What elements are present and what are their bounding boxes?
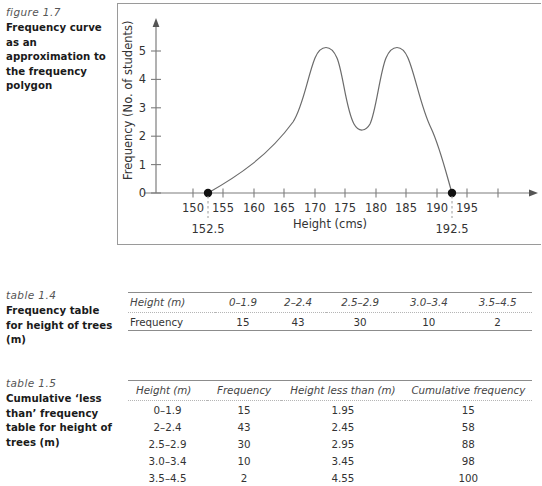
svg-text:1: 1 <box>139 158 146 172</box>
table-row: Height (m) Frequency Height less than (m… <box>128 381 532 401</box>
svg-text:4: 4 <box>139 72 146 86</box>
table-cell: 1.95 <box>281 401 405 419</box>
svg-text:150: 150 <box>182 201 204 215</box>
figure-caption-block: figure 1.7 Frequency curve as an approxi… <box>6 5 118 94</box>
table-row: 3.5–4.5 2 4.55 100 <box>128 469 532 486</box>
table-row: Height (m) 0–1.9 2–2.4 2.5–2.9 3.0–3.4 3… <box>128 293 532 313</box>
frequency-curve-path <box>208 48 452 194</box>
table-cell: 0–1.9 <box>128 401 207 419</box>
svg-text:160: 160 <box>243 201 265 215</box>
table-cell: 58 <box>405 418 532 435</box>
table-cell: 15 <box>215 313 270 331</box>
table-cell: 4.55 <box>281 469 405 486</box>
column-header: 3.0–3.4 <box>394 293 463 313</box>
table-cell: 30 <box>207 435 281 452</box>
table-cell: 2.45 <box>281 418 405 435</box>
table-1-5-caption-text: Cumulative ‘less than’ frequency table f… <box>6 392 118 450</box>
svg-text:170: 170 <box>304 201 326 215</box>
table-cell: 10 <box>394 313 463 331</box>
table-row: 0–1.9 15 1.95 15 <box>128 401 532 419</box>
svg-text:165: 165 <box>273 201 295 215</box>
figure-number: figure 1.7 <box>6 5 118 20</box>
column-header: 2.5–2.9 <box>326 293 395 313</box>
table-cell: 10 <box>207 452 281 469</box>
table-cell: 3.45 <box>281 452 405 469</box>
annotation-left-endpoint: 152.5 <box>192 222 225 236</box>
table-cell: 15 <box>405 401 532 419</box>
table-1-5-number: table 1.5 <box>6 376 118 391</box>
column-header: Frequency <box>207 381 281 401</box>
figure-caption-text: Frequency curve as an approximation to t… <box>6 21 118 94</box>
y-axis-title: Frequency (No. of students) <box>121 21 135 180</box>
svg-text:180: 180 <box>365 201 387 215</box>
table-1-5-caption-block: table 1.5 Cumulative ‘less than’ frequen… <box>6 376 118 450</box>
svg-text:2: 2 <box>139 129 146 143</box>
table-cell: 2–2.4 <box>128 418 207 435</box>
table-cell: 3.5–4.5 <box>128 469 207 486</box>
x-axis <box>144 190 538 197</box>
table-cell: 43 <box>271 313 326 331</box>
table-cell: 98 <box>405 452 532 469</box>
table-row: 3.0–3.4 10 3.45 98 <box>128 452 532 469</box>
x-axis-title: Height (cms) <box>293 217 367 231</box>
table-1-5: Height (m) Frequency Height less than (m… <box>128 380 532 486</box>
column-header: Cumulative frequency <box>405 381 532 401</box>
svg-text:175: 175 <box>334 201 356 215</box>
column-header: Height less than (m) <box>281 381 405 401</box>
annotation-right-endpoint: 192.5 <box>436 222 469 236</box>
column-header: Height (m) <box>128 293 215 313</box>
column-header: 0–1.9 <box>215 293 270 313</box>
table-1-4-caption-text: Frequency table for height of trees (m) <box>6 304 118 348</box>
column-header: Height (m) <box>128 381 207 401</box>
svg-text:3: 3 <box>139 101 146 115</box>
table-cell: 2 <box>207 469 281 486</box>
table-cell: 2 <box>463 313 532 331</box>
table-cell: 30 <box>326 313 395 331</box>
svg-text:0: 0 <box>139 186 146 200</box>
y-axis <box>153 18 160 193</box>
svg-text:155: 155 <box>212 201 234 215</box>
svg-text:195: 195 <box>456 201 478 215</box>
svg-text:185: 185 <box>395 201 417 215</box>
table-cell: 100 <box>405 469 532 486</box>
endpoint-marker-left <box>204 189 212 197</box>
table-cell: 2.95 <box>281 435 405 452</box>
endpoint-marker-right <box>448 189 456 197</box>
x-axis-tick-labels: 150 155 160 165 170 175 180 185 190 195 <box>182 201 478 215</box>
table-row: 2.5–2.9 30 2.95 88 <box>128 435 532 452</box>
table-1-4: Height (m) 0–1.9 2–2.4 2.5–2.9 3.0–3.4 3… <box>128 292 532 331</box>
column-header: 2–2.4 <box>271 293 326 313</box>
row-label: Frequency <box>128 313 215 331</box>
table-row: 2–2.4 43 2.45 58 <box>128 418 532 435</box>
svg-text:190: 190 <box>426 201 448 215</box>
table-cell: 15 <box>207 401 281 419</box>
table-1-4-number: table 1.4 <box>6 288 118 303</box>
table-row: Frequency 15 43 30 10 2 <box>128 313 532 331</box>
frequency-curve-chart: 0 1 2 3 4 5 Frequency (No. of students) … <box>118 4 542 246</box>
table-1-4-caption-block: table 1.4 Frequency table for height of … <box>6 288 118 348</box>
table-cell: 43 <box>207 418 281 435</box>
y-axis-tick-labels: 0 1 2 3 4 5 <box>139 44 146 200</box>
svg-text:5: 5 <box>139 44 146 58</box>
table-cell: 3.0–3.4 <box>128 452 207 469</box>
column-header: 3.5–4.5 <box>463 293 532 313</box>
table-cell: 88 <box>405 435 532 452</box>
figure-panel: 0 1 2 3 4 5 Frequency (No. of students) … <box>117 3 541 245</box>
table-cell: 2.5–2.9 <box>128 435 207 452</box>
